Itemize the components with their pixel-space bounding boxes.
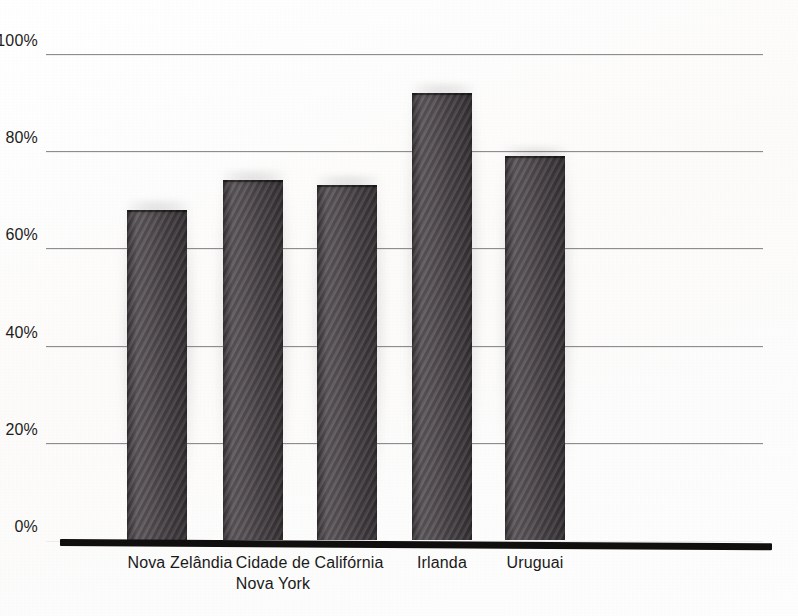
- bar-california[interactable]: [317, 185, 377, 540]
- bar-body: [127, 210, 187, 540]
- ytick-label-20: 20%: [5, 420, 38, 438]
- bar-body: [223, 180, 283, 540]
- bar-top-edge: [317, 185, 377, 187]
- bar-body: [317, 185, 377, 540]
- ytick-label-80: 80%: [5, 129, 38, 147]
- bar-nova-zelandia[interactable]: [127, 210, 187, 540]
- ytick-label-40: 40%: [5, 323, 38, 341]
- bar-top-edge: [127, 210, 187, 212]
- gridline-80: 80%: [46, 151, 763, 152]
- gridline-100: 100%: [46, 54, 763, 55]
- xlabel-uruguai: Uruguai: [475, 552, 595, 573]
- ytick-label-60: 60%: [5, 226, 38, 244]
- bar-body: [505, 156, 565, 540]
- bar-top-edge: [223, 180, 283, 182]
- bar-chart-figure: 100% 80% 60% 40% 20% 0%: [0, 0, 798, 616]
- ytick-label-100: 100%: [0, 32, 38, 50]
- bar-cidade-de-nova-york[interactable]: [223, 180, 283, 540]
- bar-irlanda[interactable]: [412, 93, 472, 540]
- bar-body: [412, 93, 472, 540]
- bar-top-edge: [505, 156, 565, 158]
- ytick-label-0: 0%: [14, 518, 38, 536]
- bar-uruguai[interactable]: [505, 156, 565, 540]
- plot-area: 100% 80% 60% 40% 20% 0%: [46, 54, 763, 540]
- bar-top-edge: [412, 93, 472, 95]
